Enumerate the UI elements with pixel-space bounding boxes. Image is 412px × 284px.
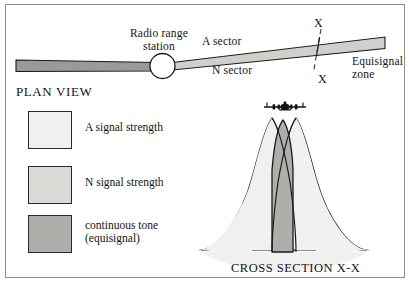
- legend-swatch-a-signal: [28, 111, 72, 149]
- plan-view-caption: PLAN VIEW: [16, 85, 92, 100]
- section-mark-bottom-label: X: [318, 73, 327, 86]
- skirt-left: [200, 118, 272, 250]
- skirt-right: [296, 118, 368, 250]
- legend-swatch-equisignal: [28, 215, 72, 253]
- equisignal-zone-label: Equisignal zone: [352, 55, 410, 80]
- plan-view-left-beam: [16, 60, 157, 72]
- legend-item-equisignal: continuous tone (equisignal): [28, 215, 198, 255]
- legend-item-n-signal: N signal strength: [28, 166, 198, 206]
- airplane-front-view-icon: [264, 102, 306, 111]
- n-sector-label: N sector: [212, 64, 252, 77]
- legend-label-a-signal: A signal strength: [85, 121, 163, 134]
- figure-container: Radio range station A sector N sector Eq…: [0, 0, 412, 284]
- radio-range-station-circle: [150, 54, 175, 79]
- legend-label-n-signal: N signal strength: [85, 176, 164, 189]
- legend-label-equisignal: continuous tone (equisignal): [85, 219, 158, 245]
- legend-swatch-n-signal: [28, 166, 72, 204]
- radio-range-station-label: Radio range station: [117, 27, 201, 53]
- section-mark-top-label: X: [314, 17, 323, 30]
- cross-section-caption: CROSS SECTION X-X: [231, 261, 360, 275]
- a-sector-label: A sector: [202, 35, 242, 48]
- left-beam-wedge: [16, 60, 157, 72]
- legend-item-a-signal: A signal strength: [28, 111, 198, 151]
